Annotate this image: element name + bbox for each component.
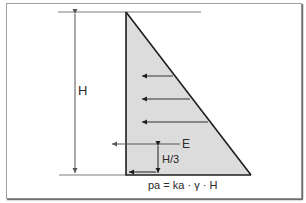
resultant-height-label: H/3	[162, 154, 179, 165]
formula-label: pa = ka · γ · H	[148, 180, 217, 191]
height-label: H	[78, 84, 87, 97]
earth-pressure-diagram	[0, 0, 306, 203]
resultant-force-label: E	[182, 138, 190, 150]
